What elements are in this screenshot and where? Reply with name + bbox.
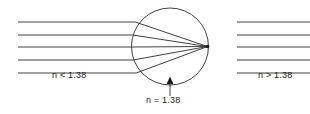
outgoing-rays-group (237, 22, 310, 73)
refracted-ray-3 (132, 47, 208, 48)
label-right-medium: n > 1.38 (258, 70, 292, 80)
refracted-ray-2 (133, 35, 208, 47)
arrow-head-icon (167, 77, 174, 85)
refracted-rays-group (132, 22, 208, 73)
refracted-ray-1 (135, 22, 207, 47)
label-sphere-index: n = 1.38 (146, 95, 180, 105)
focus-point-marker (206, 45, 210, 49)
refraction-diagram: n < 1.38 n > 1.38 n = 1.38 (0, 0, 310, 114)
label-left-medium: n < 1.38 (52, 70, 86, 80)
refracted-ray-5 (136, 47, 207, 74)
sphere-pointer-arrow (167, 77, 174, 97)
incoming-rays-group (18, 22, 136, 73)
refracted-ray-4 (133, 47, 208, 61)
